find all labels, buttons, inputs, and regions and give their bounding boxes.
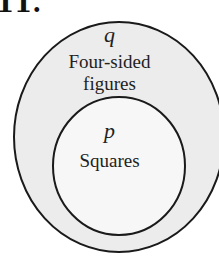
inner-set-label: Squares xyxy=(0,150,219,172)
outer-set-label-line2: figures xyxy=(0,73,219,95)
outer-set-label-line1: Four-sided xyxy=(0,51,219,73)
outer-set-variable: q xyxy=(0,22,219,48)
inner-set-variable: p xyxy=(0,118,219,144)
